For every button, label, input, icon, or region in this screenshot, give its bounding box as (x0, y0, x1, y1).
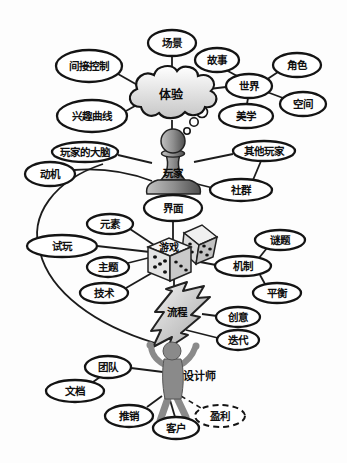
designer-torso (163, 359, 184, 399)
edge-players-brain-player (118, 155, 152, 163)
designer-right-leg (177, 398, 186, 417)
node-client-label: 客户 (165, 422, 186, 434)
node-space-label: 空间 (293, 98, 313, 110)
pawn-head (161, 129, 185, 153)
thought-bubble-small (184, 128, 190, 134)
node-mechanics: 机制 (215, 256, 271, 276)
edge-elements-game (130, 229, 154, 245)
node-aesthetics: 美学 (219, 104, 273, 128)
node-world: 世界 (226, 74, 272, 98)
hub-label-designer: 设计师 (183, 369, 216, 383)
node-technology-label: 技术 (94, 287, 115, 299)
designer-left-hand (147, 342, 154, 349)
edge-playtest-game (97, 246, 150, 252)
node-interest-curve-label: 兴趣曲线 (72, 110, 113, 122)
node-story: 故事 (195, 48, 239, 72)
node-character: 角色 (273, 53, 321, 77)
node-document: 文档 (46, 380, 104, 402)
node-motivation: 动机 (25, 162, 75, 186)
node-technology: 技术 (80, 283, 128, 303)
node-profit: 盈利 (195, 405, 245, 427)
edge-team-designer (131, 368, 163, 372)
node-playtest-label: 试玩 (52, 240, 73, 252)
node-scene: 场景 (148, 30, 196, 56)
node-scene-label: 场景 (162, 37, 183, 49)
node-team: 团队 (85, 356, 131, 378)
node-iteration: 迭代 (217, 330, 259, 350)
edge-mechanics-balance (260, 275, 265, 284)
node-elements-label: 元素 (100, 218, 121, 230)
designer-head (163, 342, 181, 360)
node-aesthetics-label: 美学 (236, 110, 257, 122)
player-pawn: 玩家 (147, 129, 201, 194)
node-character-label: 角色 (287, 59, 308, 71)
node-mechanics-label: 机制 (233, 260, 253, 272)
node-players-brain: 玩家的大脑 (52, 142, 118, 162)
node-profit-label: 盈利 (209, 410, 230, 422)
node-other-players-label: 其他玩家 (244, 145, 285, 157)
hub-label-experience: 体验 (159, 87, 184, 102)
node-community-label: 社群 (230, 184, 252, 196)
node-pitch-label: 推销 (119, 410, 140, 422)
hub-label-game: 游戏 (159, 241, 179, 253)
node-other-players: 其他玩家 (233, 141, 295, 161)
node-puzzle-label: 谜题 (270, 234, 291, 246)
edge-designer-pitch (147, 396, 162, 407)
designer-right-hand (193, 343, 200, 350)
pawn-base (147, 180, 201, 194)
edge-community-other-players (253, 161, 261, 180)
node-world-label: 世界 (239, 80, 260, 92)
node-indirect-control: 间接控制 (56, 50, 122, 82)
thought-bubble-medium (190, 118, 198, 126)
node-interface-label: 界面 (163, 202, 184, 214)
node-theme-label: 主题 (98, 261, 119, 273)
node-theme: 主题 (87, 257, 129, 277)
node-interface: 界面 (144, 195, 202, 221)
node-balance-label: 平衡 (267, 287, 288, 299)
edge-game-mechanics (200, 262, 216, 265)
node-players-brain-label: 玩家的大脑 (60, 146, 111, 158)
mindmap-diagram: 体验 玩家 (0, 0, 347, 463)
node-elements: 元素 (87, 214, 133, 234)
edge-other-players-player (194, 154, 233, 162)
edge-process-iteration (186, 330, 218, 338)
node-pitch: 推销 (105, 405, 153, 427)
hub-label-process: 流程 (167, 306, 188, 318)
experience-cloud: 体验 (130, 66, 217, 118)
hub-label-player: 玩家 (163, 167, 184, 179)
node-community: 社群 (210, 179, 272, 201)
node-idea-label: 创意 (227, 311, 249, 323)
edge-mechanics-puzzle (259, 248, 267, 258)
die-front: 游戏 (148, 238, 191, 281)
node-indirect-control-label: 间接控制 (69, 60, 109, 72)
node-space: 空间 (280, 92, 326, 116)
process-bolt: 流程 (151, 282, 210, 348)
node-team-label: 团队 (98, 361, 119, 373)
node-playtest: 试玩 (27, 235, 97, 257)
node-idea: 创意 (216, 307, 260, 327)
node-interest-curve: 兴趣曲线 (57, 100, 127, 132)
game-dice: 游戏 (148, 225, 217, 281)
node-iteration-label: 迭代 (228, 334, 249, 346)
diagram-svg: 体验 玩家 (0, 0, 347, 463)
edge-process-idea (202, 314, 217, 316)
edge-designer-client (170, 400, 175, 417)
node-balance: 平衡 (253, 283, 301, 303)
node-puzzle: 谜题 (255, 230, 305, 250)
node-document-label: 文档 (64, 385, 85, 397)
node-story-label: 故事 (207, 54, 228, 66)
node-client: 客户 (153, 417, 199, 439)
node-motivation-label: 动机 (40, 168, 61, 180)
